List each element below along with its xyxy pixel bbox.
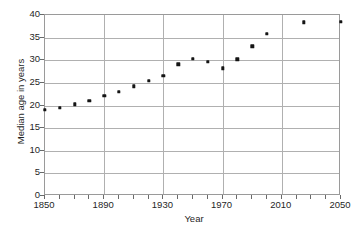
data-point xyxy=(162,74,165,77)
x-axis-title-text: Year xyxy=(184,213,203,224)
gridline-vertical xyxy=(104,15,105,194)
x-axis-tick-label: 1890 xyxy=(93,199,114,210)
gridline-horizontal xyxy=(45,173,339,174)
gridline-horizontal xyxy=(45,60,339,61)
y-axis-title-text: Median age in years xyxy=(15,59,26,145)
y-axis-tick xyxy=(40,82,44,83)
y-axis-tick xyxy=(40,59,44,60)
y-axis-tick xyxy=(40,195,44,196)
gridline-horizontal xyxy=(45,38,339,39)
y-axis-title: Median age in years xyxy=(15,27,26,177)
y-axis-tick xyxy=(40,127,44,128)
gridline-horizontal xyxy=(45,83,339,84)
y-axis-tick-label: 20 xyxy=(29,100,40,110)
y-axis-tick-label: 40 xyxy=(29,9,40,19)
gridline-vertical xyxy=(282,15,283,194)
scatter-chart-figure: 0510152025303540 18501890193019702010205… xyxy=(0,0,362,240)
y-axis-tick xyxy=(40,105,44,106)
data-point xyxy=(132,85,135,88)
data-point xyxy=(250,45,253,48)
data-point xyxy=(43,108,46,111)
data-point xyxy=(58,106,61,109)
x-axis-tick-labels: 185018901930197020102050 xyxy=(0,199,362,213)
x-axis-tick-label: 1850 xyxy=(33,199,54,210)
data-point xyxy=(176,63,179,66)
y-axis-tick xyxy=(40,37,44,38)
x-axis-tick-label: 2050 xyxy=(329,199,350,210)
gridline-horizontal xyxy=(45,151,339,152)
data-point xyxy=(117,90,120,93)
y-axis-tick-label: 35 xyxy=(29,32,40,42)
gridline-horizontal xyxy=(45,128,339,129)
gridline-vertical xyxy=(223,15,224,194)
data-point xyxy=(339,20,342,23)
gridline-vertical xyxy=(163,15,164,194)
data-point xyxy=(221,67,224,70)
plot-area xyxy=(44,14,340,195)
y-axis-tick-label: 5 xyxy=(35,167,40,177)
y-axis-tick xyxy=(40,172,44,173)
data-point xyxy=(102,94,105,97)
data-point xyxy=(302,21,305,24)
y-axis-tick-label: 10 xyxy=(29,145,40,155)
y-axis-tick xyxy=(40,14,44,15)
y-axis-tick xyxy=(40,150,44,151)
y-axis-tick-label: 25 xyxy=(29,77,40,87)
gridline-horizontal xyxy=(45,106,339,107)
x-axis-tick-label: 1930 xyxy=(152,199,173,210)
x-axis-tick-label: 2010 xyxy=(270,199,291,210)
x-axis-tick-label: 1970 xyxy=(211,199,232,210)
data-point xyxy=(265,32,268,35)
x-axis-title: Year xyxy=(0,213,362,224)
data-point xyxy=(88,99,91,102)
data-point xyxy=(206,60,209,63)
y-axis-tick-label: 15 xyxy=(29,122,40,132)
y-axis-tick-label: 30 xyxy=(29,54,40,64)
